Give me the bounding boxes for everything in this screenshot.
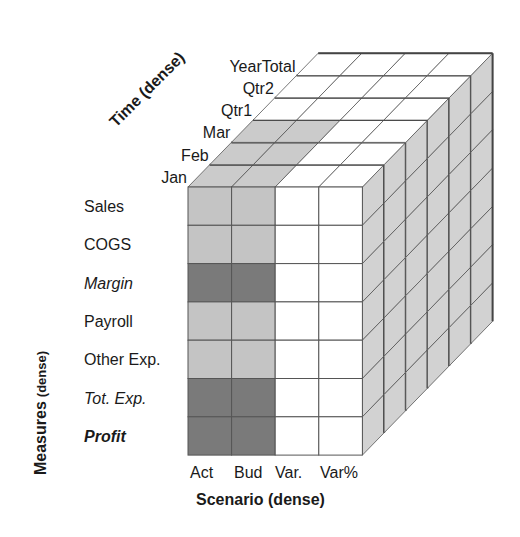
scenario-label: Bud [234, 464, 262, 481]
front-cell [188, 340, 232, 378]
cube-svg: SalesCOGSMarginPayrollOther Exp.Tot. Exp… [0, 0, 520, 537]
scenario-axis-label: Scenario (dense) [196, 491, 325, 508]
cube-front-face [188, 187, 362, 455]
measure-label: Margin [84, 275, 133, 292]
front-cell [319, 417, 363, 455]
scenario-label: Var. [275, 464, 302, 481]
measures-axis-label: Measures(dense) [32, 351, 49, 475]
front-cell [188, 417, 232, 455]
time-label: Mar [203, 124, 231, 141]
front-cell [319, 264, 363, 302]
measure-labels: SalesCOGSMarginPayrollOther Exp.Tot. Exp… [84, 198, 160, 445]
front-cell [275, 225, 319, 263]
time-label: Qtr1 [221, 102, 252, 119]
front-cell [232, 225, 276, 263]
measure-label: Profit [84, 428, 126, 445]
front-cell [275, 264, 319, 302]
front-cell [188, 379, 232, 417]
front-cell [188, 302, 232, 340]
front-cell [188, 264, 232, 302]
front-cell [319, 187, 363, 225]
time-label: YearTotal [229, 58, 295, 75]
front-cell [232, 417, 276, 455]
front-cell [232, 264, 276, 302]
front-cell [275, 379, 319, 417]
scenario-label: Act [190, 464, 214, 481]
measure-label: Other Exp. [84, 351, 160, 368]
measure-label: Tot. Exp. [84, 390, 147, 407]
cube-diagram: SalesCOGSMarginPayrollOther Exp.Tot. Exp… [0, 0, 520, 537]
front-cell [188, 225, 232, 263]
time-label: Jan [161, 169, 187, 186]
front-cell [232, 379, 276, 417]
scenario-labels: ActBudVar.Var% [190, 464, 358, 481]
front-cell [319, 225, 363, 263]
time-label: Qtr2 [243, 80, 274, 97]
measure-label: Sales [84, 198, 124, 215]
front-cell [275, 417, 319, 455]
time-label: Feb [181, 147, 209, 164]
front-cell [319, 340, 363, 378]
front-cell [188, 187, 232, 225]
front-cell [232, 302, 276, 340]
front-cell [275, 302, 319, 340]
front-cell [275, 187, 319, 225]
front-cell [319, 302, 363, 340]
measure-label: COGS [84, 236, 131, 253]
front-cell [232, 340, 276, 378]
front-cell [232, 187, 276, 225]
measure-label: Payroll [84, 313, 133, 330]
time-axis-label: Time (dense) [106, 49, 188, 131]
scenario-label: Var% [320, 464, 358, 481]
front-cell [275, 340, 319, 378]
front-cell [319, 379, 363, 417]
